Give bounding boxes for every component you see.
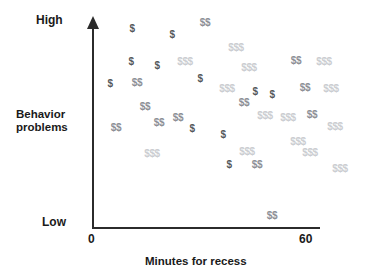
- data-point-marker: $$$: [302, 147, 318, 158]
- y-axis-low-label: Low: [42, 215, 66, 229]
- scatter-plot-figure: High Low 0 60 Behavior problems Minutes …: [0, 0, 367, 277]
- y-axis-high-label: High: [36, 13, 63, 27]
- data-point-marker: $$$: [228, 42, 244, 53]
- data-point-marker: $$: [111, 122, 121, 133]
- y-axis-line: [92, 26, 94, 228]
- x-axis-title: Minutes for recess: [145, 255, 247, 267]
- y-axis-title-line-2: problems: [16, 121, 68, 134]
- data-point-marker: $$: [307, 109, 317, 120]
- data-point-marker: $$$: [290, 136, 306, 147]
- data-point-marker: $: [107, 78, 112, 89]
- data-point-marker: $: [226, 159, 231, 170]
- y-axis-arrowhead-icon: [87, 16, 99, 29]
- data-point-marker: $: [129, 23, 134, 34]
- data-point-marker: $$$: [257, 110, 273, 121]
- data-point-marker: $$: [291, 55, 301, 66]
- data-point-marker: $$$: [280, 112, 296, 123]
- data-point-marker: $$: [200, 17, 210, 28]
- data-point-marker: $: [197, 73, 202, 84]
- x-axis-line: [92, 227, 320, 229]
- data-point-marker: $$: [173, 112, 183, 123]
- data-point-marker: $$$: [327, 121, 343, 132]
- data-point-marker: $$: [239, 97, 249, 108]
- data-point-marker: $$: [140, 101, 150, 112]
- data-point-marker: $$: [154, 117, 164, 128]
- data-point-marker: $$$: [177, 56, 193, 67]
- data-point-marker: $: [154, 60, 159, 71]
- data-point-marker: $: [252, 86, 257, 97]
- data-point-marker: $$$: [316, 56, 332, 67]
- y-axis-title: Behavior problems: [16, 108, 68, 134]
- data-point-marker: $$: [252, 159, 262, 170]
- data-point-marker: $$$: [323, 83, 339, 94]
- y-axis-title-line-1: Behavior: [16, 108, 68, 121]
- data-point-marker: $$$: [219, 83, 235, 94]
- data-point-marker: $$$: [241, 62, 257, 73]
- data-point-marker: $$: [267, 210, 277, 221]
- data-point-marker: $$$: [332, 163, 348, 174]
- data-point-marker: $: [269, 89, 274, 100]
- data-point-marker: $: [128, 56, 133, 67]
- data-point-marker: $: [220, 129, 225, 140]
- data-point-marker: $: [169, 29, 174, 40]
- x-axis-min-tick-label: 0: [88, 232, 95, 246]
- data-point-marker: $: [189, 123, 194, 134]
- data-point-marker: $$: [132, 77, 142, 88]
- x-axis-max-tick-label: 60: [299, 232, 312, 246]
- data-point-marker: $$$: [144, 148, 160, 159]
- data-point-marker: $$: [300, 82, 310, 93]
- data-point-marker: $$$: [239, 146, 255, 157]
